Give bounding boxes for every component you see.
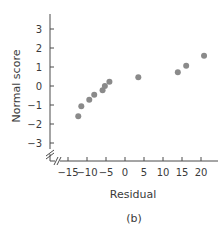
data-point xyxy=(106,79,112,85)
y-tick-label: 0 xyxy=(36,81,42,92)
data-point xyxy=(102,83,108,89)
x-tick-label: −5 xyxy=(99,167,114,178)
y-tick-label: −2 xyxy=(27,119,42,130)
x-tick-label: 5 xyxy=(141,167,147,178)
data-point xyxy=(175,69,181,75)
x-tick-label: −10 xyxy=(76,167,97,178)
panel-label: (b) xyxy=(126,212,142,225)
x-tick-label: 0 xyxy=(122,167,128,178)
data-point xyxy=(201,53,207,59)
y-tick-label: 2 xyxy=(36,43,42,54)
y-tick-label: 1 xyxy=(36,62,42,73)
data-point xyxy=(78,103,84,109)
x-tick-label: 20 xyxy=(195,167,208,178)
y-tick-label: −3 xyxy=(27,138,42,149)
data-point xyxy=(75,113,81,119)
data-point xyxy=(86,97,92,103)
x-tick-label: −15 xyxy=(57,167,78,178)
y-axis-label: Normal score xyxy=(10,49,23,122)
data-point xyxy=(135,74,141,80)
y-tick-label: −1 xyxy=(27,100,42,111)
x-tick-label: 15 xyxy=(176,167,189,178)
x-axis-label: Residual xyxy=(110,188,156,201)
x-tick-label: 10 xyxy=(157,167,170,178)
y-tick-label: 3 xyxy=(36,24,42,35)
x-axis: −15−10−505101520 xyxy=(50,157,218,178)
data-point xyxy=(91,92,97,98)
normal-probability-plot: 3210−1−2−3 −15−10−505101520 Normal score… xyxy=(0,0,223,230)
data-points xyxy=(75,53,207,119)
y-axis: 3210−1−2−3 xyxy=(27,14,54,161)
data-point xyxy=(183,63,189,69)
